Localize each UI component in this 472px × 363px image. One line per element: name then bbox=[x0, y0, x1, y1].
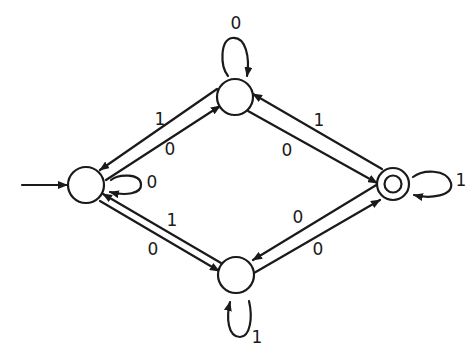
loop-left bbox=[110, 176, 141, 194]
label-top-to-left: 1 bbox=[155, 109, 166, 129]
state-top bbox=[217, 79, 253, 115]
label-right-to-top: 1 bbox=[314, 110, 325, 130]
state-start bbox=[68, 167, 104, 203]
label-loop-top: 0 bbox=[231, 13, 242, 33]
edge-right-to-top bbox=[253, 94, 382, 169]
edge-left-to-bottom bbox=[100, 201, 219, 271]
label-loop-right: 1 bbox=[456, 170, 467, 190]
label-right-to-bottom: 0 bbox=[293, 207, 304, 227]
label-loop-bottom: 1 bbox=[252, 327, 263, 347]
state-bottom bbox=[218, 257, 254, 293]
state-final-inner bbox=[385, 176, 402, 193]
label-loop-left: 0 bbox=[147, 172, 158, 192]
label-bottom-to-left: 1 bbox=[167, 210, 178, 230]
label-left-to-top: 0 bbox=[165, 139, 176, 159]
edge-top-to-left bbox=[100, 89, 217, 170]
edge-top-to-right bbox=[248, 111, 377, 183]
state-diagram: 1 0 1 0 1 0 0 0 0 0 1 1 bbox=[0, 0, 472, 363]
label-bottom-to-right: 0 bbox=[313, 239, 324, 259]
loop-bottom bbox=[228, 301, 251, 337]
label-left-to-bottom: 0 bbox=[148, 239, 159, 259]
label-top-to-right: 0 bbox=[282, 140, 293, 160]
edge-bottom-to-left bbox=[103, 194, 221, 263]
loop-right bbox=[413, 172, 451, 197]
edge-bottom-to-right bbox=[254, 200, 380, 273]
loop-top bbox=[222, 38, 248, 76]
